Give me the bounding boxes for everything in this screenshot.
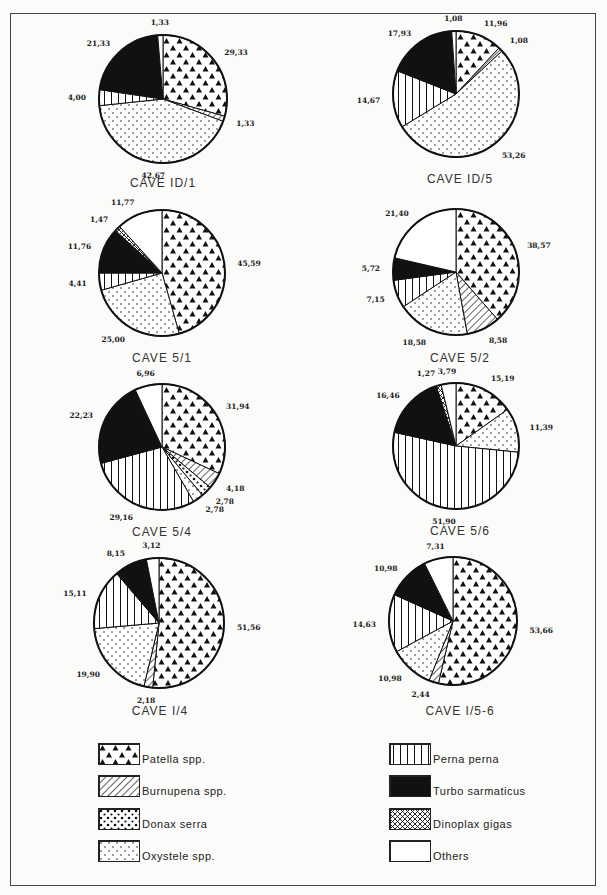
slice-value-label: 51,56 (237, 623, 261, 632)
slice-value-label: 14,63 (353, 620, 377, 629)
slice-value-label: 2,44 (411, 690, 429, 699)
legend-item-perna: Perna perna (389, 741, 499, 765)
slice-value-label: 38,57 (527, 241, 551, 250)
slice-value-label: 19,90 (76, 670, 100, 679)
slice-value-label: 53,66 (529, 626, 553, 635)
caption-cave-i-4: CAVE I/4 (90, 704, 230, 718)
caption-cave-id-1: CAVE ID/1 (93, 176, 233, 190)
perna-swatch-icon (389, 743, 431, 765)
slice-value-label: 14,67 (357, 96, 381, 105)
burnupena-swatch-icon (98, 775, 140, 797)
slice-value-label: 10,98 (374, 564, 398, 573)
slice-value-label: 11,39 (529, 423, 553, 432)
slice-value-label: 4,00 (68, 93, 86, 102)
slice-value-label: 6,96 (136, 369, 154, 378)
slice-value-label: 17,93 (388, 29, 412, 38)
slice-value-label: 15,11 (63, 589, 87, 598)
legend-item-donax: Donax serra (98, 806, 207, 830)
slice-value-label: 53,26 (502, 151, 526, 160)
patella-swatch-icon (98, 743, 140, 765)
slice-value-label: 10,98 (378, 674, 402, 683)
others-swatch-icon (389, 840, 431, 862)
pie-chart-cave-i-4: 51,562,1819,9015,118,153,12 (54, 518, 264, 732)
slice-value-label: 1,47 (90, 215, 108, 224)
legend-item-burnupena: Burnupena spp. (98, 773, 227, 797)
slice-value-label: 11,77 (111, 198, 135, 207)
slice-value-label: 22,23 (70, 411, 94, 420)
slice-value-label: 29,33 (224, 48, 248, 57)
slice-value-label: 21,40 (385, 209, 409, 218)
legend-item-dinoplax: Dinoplax gigas (389, 806, 512, 830)
slice-value-label: 1,33 (151, 18, 169, 27)
turbo-swatch-icon (389, 775, 431, 797)
caption-cave-i-5-6: CAVE I/5-6 (390, 704, 530, 718)
slice-value-label: 1,27 (417, 369, 435, 378)
caption-cave-5-1: CAVE 5/1 (92, 351, 232, 365)
slice-value-label: 4,41 (68, 279, 86, 288)
slice-value-label: 8,15 (107, 549, 125, 558)
slice-value-label: 1,33 (236, 119, 254, 128)
caption-cave-5-2: CAVE 5/2 (390, 351, 530, 365)
donax-swatch-icon (98, 808, 140, 830)
legend-item-oxystele: Oxystele spp. (98, 838, 215, 862)
slice-value-label: 21,33 (87, 39, 111, 48)
caption-cave-5-6: CAVE 5/6 (390, 524, 530, 538)
legend-item-others: Others (389, 838, 469, 862)
slice-value-label: 7,31 (426, 542, 444, 551)
slice-value-label: 7,15 (367, 295, 385, 304)
pie-chart-cave-i-5-6: 53,662,4410,9814,6310,987,31 (349, 517, 557, 729)
slice-value-label: 5,72 (362, 264, 380, 273)
pie-slice-patella (153, 558, 224, 688)
slice-value-label: 16,46 (376, 391, 400, 400)
dinoplax-swatch-icon (389, 808, 431, 830)
slice-value-label: 31,94 (226, 402, 250, 411)
slice-value-label: 45,59 (237, 259, 261, 268)
oxystele-swatch-icon (98, 840, 140, 862)
slice-value-label: 11,76 (68, 242, 92, 251)
slice-value-label: 3,12 (142, 541, 160, 550)
slice-value-label: 1,08 (510, 36, 528, 45)
caption-cave-id-5: CAVE ID/5 (390, 172, 530, 186)
slice-value-label: 2,78 (206, 505, 224, 514)
slice-value-label: 11,96 (484, 19, 508, 28)
slice-value-label: 3,79 (438, 367, 456, 376)
legend-item-turbo: Turbo sarmaticus (389, 773, 526, 797)
caption-cave-5-4: CAVE 5/4 (92, 525, 232, 539)
slice-value-label: 1,08 (444, 14, 462, 23)
slice-value-label: 4,18 (226, 484, 244, 493)
legend-item-patella: Patella spp. (98, 741, 205, 765)
slice-value-label: 15,19 (491, 374, 515, 383)
